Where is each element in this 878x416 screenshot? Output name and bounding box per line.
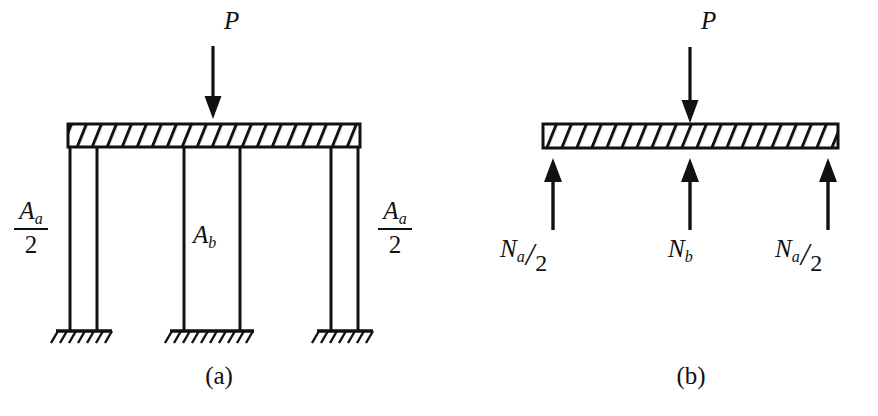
reaction-label-right: Na / 2: [775, 236, 822, 270]
load-label-P: P: [224, 8, 239, 33]
left-reaction-denominator: 2: [535, 251, 547, 275]
right-column-area-label: Aa 2: [378, 198, 412, 257]
reaction-arrow-middle: [681, 158, 699, 230]
load-arrow-P: [682, 47, 699, 123]
load-label-P: P: [701, 8, 716, 33]
middle-column-area-label: Ab: [193, 222, 216, 251]
middle-reaction-var: N: [668, 235, 685, 262]
figure-root: P Aa 2 Ab Aa 2 (a): [0, 0, 878, 416]
right-reaction-slash: /: [800, 239, 811, 270]
reaction-arrow-right: [819, 158, 837, 230]
left-column-area-label: Aa 2: [14, 198, 48, 257]
right-column: [331, 147, 358, 330]
middle-reaction-subscript: b: [685, 248, 693, 265]
reaction-label-middle: Nb: [668, 236, 693, 265]
panel-a-drawing: [0, 0, 440, 416]
rigid-beam: [68, 124, 360, 147]
support-fixed-middle: [165, 331, 254, 343]
caption-panel-b: (b): [646, 362, 736, 390]
right-area-denominator: 2: [389, 230, 402, 257]
left-area-denominator: 2: [25, 230, 38, 257]
panel-b-drawing: [440, 0, 878, 416]
left-area-numerator-var: A: [19, 197, 34, 224]
panel-a: P Aa 2 Ab Aa 2 (a): [0, 0, 440, 416]
free-body-beam: [543, 124, 838, 148]
panel-b: P Na / 2 Nb Na / 2 (: [440, 0, 878, 416]
reaction-label-left: Na / 2: [500, 236, 547, 270]
left-area-numerator-subscript: a: [35, 210, 43, 227]
reaction-arrow-left: [544, 158, 562, 230]
load-arrow-P: [205, 46, 222, 119]
middle-area-subscript: b: [208, 234, 216, 251]
left-reaction-slash: /: [525, 239, 536, 270]
left-reaction-var: N: [500, 235, 517, 262]
right-area-numerator-subscript: a: [399, 210, 407, 227]
middle-area-var: A: [193, 221, 208, 248]
caption-panel-a: (a): [174, 362, 264, 390]
support-fixed-right: [312, 331, 373, 343]
left-reaction-subscript: a: [517, 248, 525, 265]
right-reaction-var: N: [775, 235, 792, 262]
support-fixed-left: [51, 331, 112, 343]
left-column: [70, 147, 97, 330]
right-area-numerator-var: A: [383, 197, 398, 224]
right-reaction-subscript: a: [792, 248, 800, 265]
right-reaction-denominator: 2: [810, 251, 822, 275]
